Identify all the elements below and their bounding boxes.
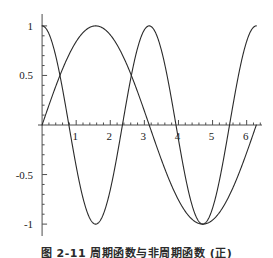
x-tick-label: 5 xyxy=(209,130,215,142)
plot-background xyxy=(0,0,273,258)
figure-caption: 图 2-11 周期函数与非周期函数 (正) xyxy=(0,247,273,258)
y-tick-label: 0.5 xyxy=(19,69,33,81)
y-tick-label: 1 xyxy=(28,20,34,32)
figure-container: 123456 -1-0.50.51 图 2-11 周期函数与非周期函数 (正) xyxy=(0,0,273,258)
x-tick-label: 3 xyxy=(141,130,147,142)
x-tick-label: 6 xyxy=(243,130,249,142)
y-tick-label: -0.5 xyxy=(16,169,34,181)
x-tick-label: 1 xyxy=(72,130,78,142)
plot-canvas: 123456 -1-0.50.51 xyxy=(0,0,273,258)
y-tick-label: -1 xyxy=(24,218,33,230)
x-tick-label: 2 xyxy=(107,130,113,142)
